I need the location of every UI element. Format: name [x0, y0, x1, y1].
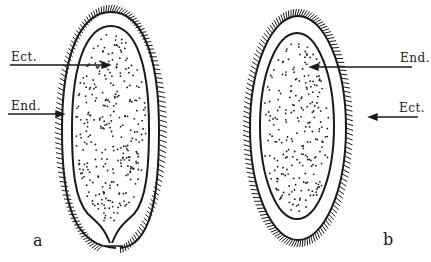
figure-label-a: a [33, 233, 43, 249]
label-end-b: End. [400, 52, 430, 64]
ectoderm-outline-a [62, 12, 159, 248]
endoderm-outline-a [72, 26, 149, 243]
figure-a [8, 5, 167, 253]
diagram-canvas: Ect. End. a End. Ect. b [0, 0, 431, 262]
label-end-a: End. [11, 100, 41, 112]
label-ect-a: Ect. [11, 51, 37, 63]
endoderm-outline-b [260, 33, 334, 219]
ectoderm-outline-b [250, 16, 346, 240]
endoderm-stipple-a [75, 34, 146, 222]
figure-label-b: b [383, 232, 393, 248]
figure-b [243, 9, 418, 247]
endoderm-stipple-b [264, 43, 329, 212]
label-ect-b: Ect. [399, 102, 425, 114]
